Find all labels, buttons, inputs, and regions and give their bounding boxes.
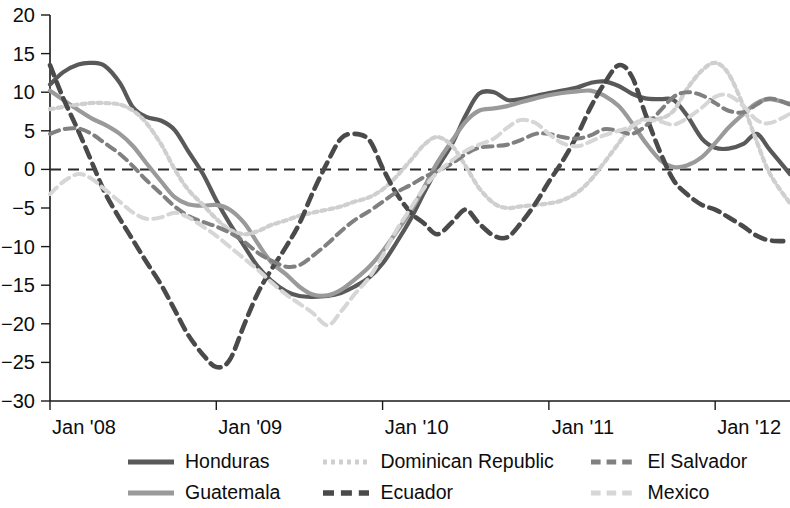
chart-legend: Honduras Dominican Republic El Salvador …	[0, 446, 790, 508]
y-tick-label: 5	[24, 120, 35, 142]
legend-label-guatemala: Guatemala	[185, 483, 280, 503]
legend-swatch-el-salvador-icon	[591, 455, 637, 469]
chart-figure: 20151050−5−10−15−20−25−30 Jan '08Jan '09…	[0, 0, 790, 508]
series-line-mexico	[50, 95, 790, 326]
legend-swatch-guatemala-icon	[128, 486, 174, 500]
x-tick-label: Jan '12	[717, 416, 781, 438]
series-line-dominican-republic	[50, 63, 790, 234]
legend-row-bottom: Guatemala Ecuador Mexico	[128, 477, 790, 508]
legend-label-dominican-republic: Dominican Republic	[380, 452, 553, 472]
legend-swatch-dominican-republic-icon	[323, 455, 369, 469]
legend-swatch-mexico-icon	[591, 486, 637, 500]
x-tick-label: Jan '09	[218, 416, 282, 438]
y-tick-label: −25	[1, 351, 35, 373]
y-tick-label: −30	[1, 390, 35, 412]
legend-item-honduras[interactable]: Honduras	[128, 446, 323, 477]
legend-item-el-salvador[interactable]: El Salvador	[591, 446, 790, 477]
y-tick-label: 20	[13, 4, 35, 26]
legend-swatch-honduras-icon	[128, 455, 174, 469]
line-chart-plot: 20151050−5−10−15−20−25−30 Jan '08Jan '09…	[0, 0, 790, 450]
legend-label-ecuador: Ecuador	[380, 483, 453, 503]
x-tick-label: Jan '10	[385, 416, 449, 438]
legend-label-mexico: Mexico	[648, 483, 710, 503]
legend-item-mexico[interactable]: Mexico	[591, 477, 790, 508]
data-series-group	[50, 63, 790, 368]
legend-row-top: Honduras Dominican Republic El Salvador	[128, 446, 790, 477]
x-axis-tick-labels: Jan '08Jan '09Jan '10Jan '11Jan '12	[52, 416, 781, 438]
legend-label-el-salvador: El Salvador	[648, 452, 748, 472]
y-tick-label: 15	[13, 43, 35, 65]
x-tick-label: Jan '11	[552, 416, 614, 438]
y-axis-ticks	[41, 15, 50, 401]
legend-item-ecuador[interactable]: Ecuador	[323, 477, 590, 508]
legend-swatch-ecuador-icon	[323, 486, 369, 500]
x-tick-label: Jan '08	[52, 416, 116, 438]
y-tick-label: 10	[13, 81, 35, 103]
y-tick-label: −10	[1, 236, 35, 258]
y-tick-label: −15	[1, 274, 35, 296]
y-tick-label: −20	[1, 313, 35, 335]
legend-item-guatemala[interactable]: Guatemala	[128, 477, 323, 508]
y-tick-label: 0	[24, 158, 35, 180]
y-axis-tick-labels: 20151050−5−10−15−20−25−30	[1, 4, 35, 412]
x-axis-ticks	[50, 401, 715, 410]
legend-label-honduras: Honduras	[185, 452, 270, 472]
legend-item-dominican-republic[interactable]: Dominican Republic	[323, 446, 590, 477]
y-tick-label: −5	[12, 197, 35, 219]
